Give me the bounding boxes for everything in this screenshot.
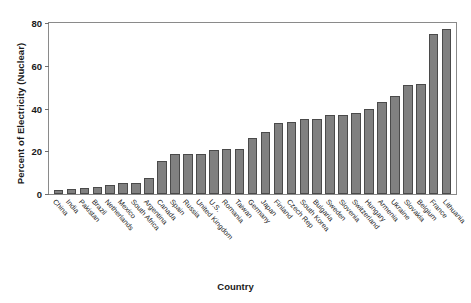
bar-slot: [168, 23, 181, 194]
bar-slot: [220, 23, 233, 194]
x-label-slot: Ukraine: [389, 196, 402, 274]
y-tick-mark: [45, 23, 49, 24]
x-label-slot: Spain: [168, 196, 181, 274]
x-label-slot: Armenia: [376, 196, 389, 274]
x-label-slot: Bulgaria: [311, 196, 324, 274]
bar-slot: [311, 23, 324, 194]
x-label-slot: Romania: [220, 196, 233, 274]
bar-slot: [104, 23, 117, 194]
y-axis-title: Percent of Electricity (Nuclear): [15, 24, 26, 204]
x-label-slot: Mexico: [116, 196, 129, 274]
bar-slot: [91, 23, 104, 194]
bar-slot: [285, 23, 298, 194]
x-axis-title: Country: [0, 281, 471, 292]
x-label-slot: U.S.: [207, 196, 220, 274]
bar[interactable]: [93, 187, 103, 194]
x-label-slot: Netherlands: [103, 196, 116, 274]
y-tick-label: 40: [31, 103, 42, 114]
bar[interactable]: [338, 115, 348, 194]
bar[interactable]: [390, 96, 400, 194]
x-label-slot: South Africa: [129, 196, 142, 274]
x-label-slot: Finland: [272, 196, 285, 274]
bar[interactable]: [364, 109, 374, 195]
bar-slot: [375, 23, 388, 194]
x-label-slot: Sweden: [324, 196, 337, 274]
x-label-slot: Belgium: [415, 196, 428, 274]
bar[interactable]: [403, 85, 413, 194]
bar-slot: [143, 23, 156, 194]
bar-slot: [324, 23, 337, 194]
plot-area: 020406080: [48, 22, 457, 195]
bar-slot: [337, 23, 350, 194]
bar-slot: [156, 23, 169, 194]
bar-slot: [363, 23, 376, 194]
x-label-slot: Czech Rep: [285, 196, 298, 274]
x-axis-tick-labels: ChinaIndiaPakistanBrazilNetherlandsMexic…: [48, 196, 457, 274]
bar[interactable]: [183, 154, 193, 194]
bar[interactable]: [300, 119, 310, 194]
bar-slot: [233, 23, 246, 194]
y-tick-mark: [45, 66, 49, 67]
bar[interactable]: [80, 188, 90, 194]
x-label-slot: Hungary: [363, 196, 376, 274]
x-label-slot: Switzerland: [350, 196, 363, 274]
bar-slot: [181, 23, 194, 194]
bar-slot: [414, 23, 427, 194]
bar-slot: [117, 23, 130, 194]
x-label-slot: Taiwan: [233, 196, 246, 274]
bar[interactable]: [429, 34, 439, 194]
x-label-slot: India: [64, 196, 77, 274]
bar-slot: [52, 23, 65, 194]
bar[interactable]: [67, 189, 77, 194]
bar[interactable]: [351, 113, 361, 194]
bar[interactable]: [377, 102, 387, 194]
bar-slot: [65, 23, 78, 194]
y-tick-label: 80: [31, 18, 42, 29]
bar[interactable]: [157, 161, 167, 194]
bar[interactable]: [442, 29, 452, 194]
y-tick-label: 0: [37, 189, 42, 200]
bar[interactable]: [312, 119, 322, 194]
bar-slot: [350, 23, 363, 194]
bar[interactable]: [209, 150, 219, 194]
x-label-slot: Pakistan: [77, 196, 90, 274]
bar[interactable]: [248, 138, 258, 194]
bar-slot: [78, 23, 91, 194]
x-label-slot: Canada: [155, 196, 168, 274]
bar[interactable]: [105, 185, 115, 194]
bar-slot: [440, 23, 453, 194]
x-label-slot: Russia: [181, 196, 194, 274]
bar[interactable]: [54, 190, 64, 194]
bar[interactable]: [274, 123, 284, 194]
bar[interactable]: [235, 149, 245, 194]
bar[interactable]: [325, 115, 335, 194]
bar-slot: [259, 23, 272, 194]
y-tick-label: 20: [31, 146, 42, 157]
bar-series: [49, 23, 456, 194]
x-label-slot: South Korea: [298, 196, 311, 274]
x-label-slot: Slovenia: [337, 196, 350, 274]
bar-slot: [298, 23, 311, 194]
nuclear-electricity-bar-chart: Percent of Electricity (Nuclear) 0204060…: [0, 0, 471, 303]
bar-slot: [388, 23, 401, 194]
y-tick-mark: [45, 109, 49, 110]
bar[interactable]: [222, 149, 232, 194]
bar[interactable]: [196, 154, 206, 194]
x-label-slot: China: [51, 196, 64, 274]
bar[interactable]: [118, 183, 128, 194]
bar-slot: [246, 23, 259, 194]
x-label-slot: Lithuania: [441, 196, 454, 274]
bar[interactable]: [416, 84, 426, 194]
bar[interactable]: [170, 154, 180, 194]
bar-slot: [207, 23, 220, 194]
bar-slot: [401, 23, 414, 194]
x-label-slot: Argentina: [142, 196, 155, 274]
x-label-slot: Japan: [259, 196, 272, 274]
bar[interactable]: [144, 178, 154, 194]
bar[interactable]: [287, 122, 297, 194]
bar-slot: [130, 23, 143, 194]
x-label-slot: Brazil: [90, 196, 103, 274]
bar[interactable]: [261, 132, 271, 194]
bar[interactable]: [131, 183, 141, 194]
bar-slot: [194, 23, 207, 194]
